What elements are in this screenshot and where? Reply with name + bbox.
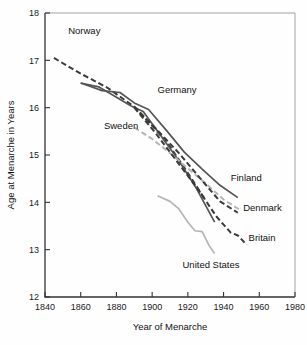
series-label-britain: Britain [249, 232, 276, 243]
menarche-line-chart: 18401860188019001920194019601980 1213141… [0, 0, 307, 345]
y-tick-label: 18 [29, 8, 39, 18]
series-label-germany: Germany [158, 84, 197, 95]
axis-line-main [45, 13, 295, 297]
chart-canvas: 18401860188019001920194019601980 1213141… [0, 0, 307, 345]
axis-line-frame [45, 13, 295, 297]
series-label-denmark: Denmark [243, 202, 282, 213]
series-label-sweden: Sweden [104, 120, 138, 131]
series-line-united-states [158, 196, 215, 254]
series-line-germany [81, 83, 238, 198]
y-tick-label: 14 [29, 198, 39, 208]
x-axis-title: Year of Menarche [133, 321, 208, 332]
y-tick-label: 16 [29, 103, 39, 113]
axis-frame [45, 13, 295, 297]
x-axis-ticks: 18401860188019001920194019601980 [35, 292, 305, 312]
series-lines [54, 58, 247, 253]
x-tick-label: 1880 [106, 302, 126, 312]
series-line-denmark [134, 107, 238, 213]
y-tick-label: 17 [29, 56, 39, 66]
series-labels: NorwaySwedenGermanyFinlandDenmarkBritain… [68, 25, 282, 269]
y-tick-label: 13 [29, 245, 39, 255]
series-line-sweden [81, 83, 215, 222]
series-label-united-states: United States [183, 259, 240, 270]
x-tick-label: 1960 [249, 302, 269, 312]
y-axis-title: Age at Menarche in Years [5, 100, 16, 209]
series-label-norway: Norway [68, 25, 100, 36]
x-tick-label: 1900 [142, 302, 162, 312]
x-tick-label: 1860 [71, 302, 91, 312]
y-tick-label: 12 [29, 292, 39, 302]
y-axis-ticks: 12131415161718 [29, 8, 50, 302]
x-tick-label: 1980 [285, 302, 305, 312]
series-line-finland [134, 128, 241, 211]
x-tick-label: 1840 [35, 302, 55, 312]
x-tick-label: 1940 [214, 302, 234, 312]
y-tick-label: 15 [29, 150, 39, 160]
x-tick-label: 1920 [178, 302, 198, 312]
series-label-finland: Finland [231, 172, 262, 183]
